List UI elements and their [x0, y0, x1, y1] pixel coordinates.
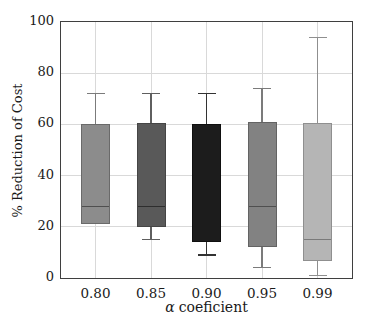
lower-whisker-line [261, 247, 262, 267]
upper-whisker-cap [198, 93, 216, 94]
y-axis-title: % Reduction of Cost [10, 71, 27, 231]
y-tick-label: 80 [10, 64, 54, 79]
y-tick-label: 60 [10, 115, 54, 130]
lower-whisker-cap [198, 254, 216, 255]
box [248, 122, 277, 247]
upper-whisker-line [317, 37, 318, 123]
median-line [138, 206, 165, 208]
y-tick-label: 20 [10, 218, 54, 233]
median-line [249, 206, 276, 208]
box [81, 124, 110, 224]
lower-whisker-line [206, 242, 207, 255]
median-line [82, 206, 109, 208]
upper-whisker-cap [87, 93, 105, 94]
lower-whisker-line [150, 227, 151, 240]
alpha-symbol: α [165, 299, 174, 315]
upper-whisker-line [206, 94, 207, 125]
lower-whisker-cap [142, 239, 160, 240]
upper-whisker-line [261, 89, 262, 122]
upper-whisker-line [150, 94, 151, 123]
box [192, 124, 221, 242]
lower-whisker-cap [253, 267, 271, 268]
lower-whisker-cap [309, 275, 327, 276]
lower-whisker-line [317, 261, 318, 275]
box [303, 123, 332, 261]
plot-area: 0204060801000.800.850.900.950.99 [60, 21, 353, 279]
boxplot-chart: % Reduction of Cost 0204060801000.800.85… [0, 0, 374, 327]
y-tick-label: 100 [10, 13, 54, 28]
upper-whisker-cap [142, 93, 160, 94]
upper-whisker-cap [309, 37, 327, 38]
y-tick-label: 40 [10, 167, 54, 182]
median-line [304, 239, 331, 241]
x-axis-title: αcoeficient [61, 299, 352, 315]
upper-whisker-line [95, 94, 96, 125]
y-tick-label: 0 [10, 269, 54, 284]
x-axis-title-text: coeficient [179, 299, 248, 315]
upper-whisker-cap [253, 88, 271, 89]
box [137, 123, 166, 227]
